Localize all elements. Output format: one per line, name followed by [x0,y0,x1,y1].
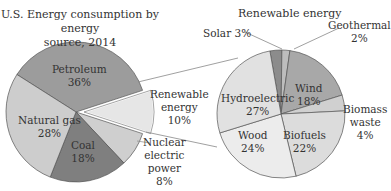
label-name-2: waste [343,116,387,129]
label-value: 18% [71,152,95,165]
label-geothermal: Geothermal 2% [328,19,391,45]
label-solar: Solar 3% [203,27,251,40]
label-name: Wind [295,82,322,95]
label-name: Biomass [343,103,387,116]
right-chart-title: Renewable energy [238,7,342,20]
label-nuclear: Nuclear electric power 8% [143,136,186,188]
label-wood: Wood 24% [238,129,267,155]
label-petroleum: Petroleum 36% [52,63,107,89]
label-wind: Wind 18% [295,82,322,108]
label-value: 22% [283,142,326,155]
label-name-3: power [143,162,186,175]
connector-line-top [138,58,238,82]
label-name: Hydroelectric [221,92,294,105]
label-natural-gas: Natural gas 28% [18,114,81,140]
label-value: 8% [143,175,186,188]
label-value: 2% [328,32,391,45]
title-line-1: U.S. Energy consumption by energy [0,8,160,36]
label-biomass-waste: Biomass waste 4% [343,103,387,142]
label-value: 27% [221,105,294,118]
label-name-2: energy [150,101,209,114]
label-name: Wood [238,129,267,142]
label-name: Biofuels [283,129,326,142]
label-value: 4% [343,129,387,142]
left-chart-title: U.S. Energy consumption by energy source… [0,8,160,50]
label-renewable: Renewable energy 10% [150,88,209,127]
label-value: 10% [150,114,209,127]
label-name: Coal [71,139,95,152]
label-name: Petroleum [52,63,107,76]
label-biofuels: Biofuels 22% [283,129,326,155]
label-value: 18% [295,95,322,108]
label-coal: Coal 18% [71,139,95,165]
label-hydroelectric: Hydroelectric 27% [221,92,294,118]
title-line-2: source, 2014 [0,36,160,50]
label-name: Natural gas [18,114,81,127]
label-name: Renewable [150,88,209,101]
label-name: Geothermal [328,19,391,32]
label-value: 24% [238,142,267,155]
label-value: 36% [52,76,107,89]
label-name: Nuclear [143,136,186,149]
label-name-2: electric [143,149,186,162]
